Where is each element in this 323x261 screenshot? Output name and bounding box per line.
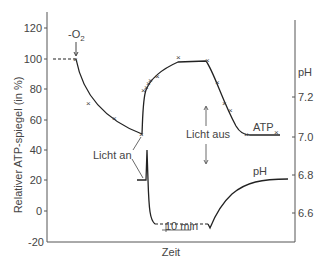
atp-ph-chart: 120 100 80 60 40 20 0 -20 pH 7.2 7.0 6.8… [0,0,323,261]
svg-text:×: × [176,53,181,62]
y-axis-title: Relativer ATP-spiegel (in %) [12,77,24,214]
svg-text:×: × [139,130,144,139]
tick-label: 60 [30,114,42,126]
tick-label: 7.0 [298,131,313,143]
atp-markers: × × × × × × × × × × × × × × × × [73,53,279,139]
tick-label: 20 [30,174,42,186]
svg-text:×: × [244,130,249,139]
tick-label: -20 [28,236,44,248]
svg-text:×: × [222,99,227,108]
ph-axis-label: pH [298,66,312,78]
x-axis-title: Zeit [162,246,180,258]
oxygen-label: -O2 [68,28,85,43]
svg-text:×: × [205,56,210,65]
ph-curve [137,150,155,224]
tick-label: 0 [36,205,42,217]
tick-label: 40 [30,144,42,156]
light-on-arrow-down [132,159,143,178]
left-ticks: 120 100 80 60 40 20 0 -20 [24,22,47,248]
ph-curve-label: pH [253,165,267,177]
ph-recovery [208,179,288,228]
tick-label: 6.8 [298,169,313,181]
svg-text:×: × [86,99,91,108]
svg-text:×: × [215,78,220,87]
svg-text:×: × [155,72,160,81]
tick-label: 7.2 [298,91,313,103]
atp-curve [76,59,280,135]
tick-label: 100 [24,53,42,65]
svg-text:×: × [73,55,78,64]
svg-text:×: × [148,76,153,85]
light-off-label: Licht aus [186,128,231,140]
light-on-label: Licht an [93,149,132,161]
svg-text:×: × [274,128,279,137]
atp-label: ATP [253,121,274,133]
tick-label: 6.6 [298,207,313,219]
svg-text:×: × [112,114,117,123]
tick-label: 80 [30,83,42,95]
ten-min-label: 10 min [165,220,198,232]
light-on-arrow-up [133,137,141,150]
svg-text:×: × [228,106,233,115]
tick-label: 120 [24,22,42,34]
